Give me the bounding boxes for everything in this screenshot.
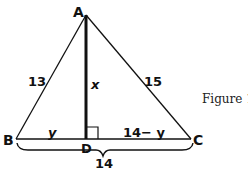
- figure-caption: Figure 1: [202, 92, 248, 106]
- altitude-label: x: [90, 77, 100, 92]
- vertex-d-label: D: [81, 141, 92, 156]
- side-ab: [16, 15, 86, 139]
- vertex-b-label: B: [3, 132, 14, 148]
- side-ac-label: 15: [144, 74, 162, 89]
- triangle-diagram: A B C D 13 15 x y 14− y 14 Figure 1: [0, 0, 248, 170]
- brace-bc: [17, 143, 193, 156]
- side-ab-label: 13: [28, 74, 46, 89]
- side-bc-label: 14: [95, 156, 113, 170]
- segment-bd-label: y: [48, 125, 57, 140]
- right-angle-mark: [87, 127, 98, 139]
- side-ac: [86, 15, 191, 139]
- vertex-c-label: C: [193, 132, 203, 148]
- vertex-a-label: A: [73, 4, 84, 20]
- segment-dc-label: 14− y: [123, 125, 166, 140]
